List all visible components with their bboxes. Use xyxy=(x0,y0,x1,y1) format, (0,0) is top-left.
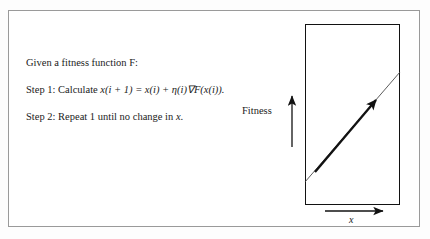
fitness-axis-label: Fitness xyxy=(242,105,272,116)
x-axis-label: x xyxy=(349,214,353,225)
fitness-landscape-box xyxy=(305,24,400,205)
algorithm-step2-line: Step 2: Repeat 1 until no change in x. xyxy=(26,110,241,123)
step1-prefix: Step 1: Calculate xyxy=(26,84,100,95)
algorithm-step1-line: Step 1: Calculate x(i + 1) = x(i) + η(i)… xyxy=(26,83,241,96)
step1-formula: x(i + 1) = x(i) + η(i)∇F(x(i)). xyxy=(100,84,224,95)
algorithm-text-block: Given a fitness function F: Step 1: Calc… xyxy=(26,56,241,123)
step2-prefix: Step 2: Repeat 1 until no change in xyxy=(26,111,176,122)
algorithm-intro-line: Given a fitness function F: xyxy=(26,56,241,69)
step2-suffix: . xyxy=(181,111,184,122)
figure-canvas: Given a fitness function F: Step 1: Calc… xyxy=(0,0,430,239)
